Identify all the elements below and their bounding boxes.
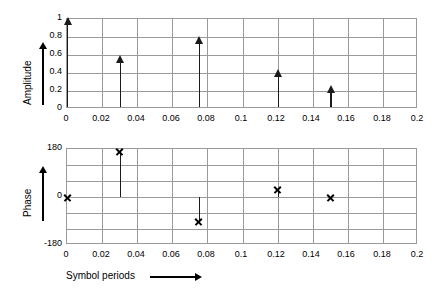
phase-xtick: 0.04 xyxy=(118,250,154,259)
amplitude-stem xyxy=(330,93,331,108)
gridline-v xyxy=(102,19,103,107)
phase-xtick: 0.12 xyxy=(258,250,294,259)
amplitude-arrowhead-icon xyxy=(195,36,203,44)
phase-xtick: 0.06 xyxy=(153,250,189,259)
amplitude-arrowhead-icon xyxy=(64,17,72,25)
amplitude-xtick: 0.12 xyxy=(258,114,294,123)
phase-xtick: 0.02 xyxy=(83,250,119,259)
gridline-v xyxy=(383,19,384,107)
amplitude-ytick: 0 xyxy=(38,103,62,112)
phase-xtick: 0.18 xyxy=(364,250,400,259)
amplitude-ytick: 0.4 xyxy=(38,67,62,76)
gridline-v xyxy=(207,19,208,107)
phase-xtick: 0.08 xyxy=(188,250,224,259)
gridline-v xyxy=(102,149,103,243)
amplitude-stem xyxy=(120,63,121,107)
gridline-v xyxy=(348,149,349,243)
gridline-h xyxy=(67,213,416,214)
amplitude-arrowhead-icon xyxy=(274,69,282,77)
gridline-v xyxy=(243,19,244,107)
phase-ytick: -180 xyxy=(28,239,62,248)
amplitude-xtick: 0.14 xyxy=(293,114,329,123)
phase-plot-area xyxy=(66,148,417,244)
amplitude-xtick: 0.06 xyxy=(153,114,189,123)
amplitude-xtick: 0.16 xyxy=(328,114,364,123)
amplitude-ytick: 0.6 xyxy=(38,49,62,58)
phase-marker xyxy=(194,217,203,226)
phase-xtick: 0.14 xyxy=(293,250,329,259)
gridline-h-zero xyxy=(67,197,416,198)
phase-xtick: 0.16 xyxy=(328,250,364,259)
amplitude-xtick: 0.08 xyxy=(188,114,224,123)
amplitude-xtick: 0.2 xyxy=(399,114,435,123)
phase-ytick: 0 xyxy=(28,191,62,200)
amplitude-stem xyxy=(67,25,68,107)
phase-marker xyxy=(326,193,335,202)
phase-chart-panel: Phase xyxy=(0,140,442,300)
phase-xtick: 0.2 xyxy=(399,250,435,259)
gridline-h xyxy=(67,229,416,230)
amplitude-xtick: 0 xyxy=(48,114,84,123)
phase-xtick: 0.1 xyxy=(223,250,259,259)
phase-marker xyxy=(115,147,124,156)
phase-xtick: 0 xyxy=(48,250,84,259)
amplitude-ytick: 0.2 xyxy=(38,85,62,94)
amplitude-chart-panel: Amplitude xyxy=(0,0,442,140)
amplitude-stem xyxy=(199,44,200,107)
amplitude-xtick: 0.1 xyxy=(223,114,259,123)
amplitude-xtick: 0.02 xyxy=(83,114,119,123)
gridline-v xyxy=(172,19,173,107)
phase-stem xyxy=(120,151,121,197)
xaxis-label: Symbol periods xyxy=(66,270,135,281)
gridline-v xyxy=(313,19,314,107)
amplitude-ytick: 1 xyxy=(38,13,62,22)
amplitude-axis-label: Amplitude xyxy=(22,61,33,105)
amplitude-ytick: 0.8 xyxy=(38,31,62,40)
amplitude-xtick: 0.04 xyxy=(118,114,154,123)
phase-marker xyxy=(273,185,282,194)
amplitude-stem xyxy=(278,77,279,107)
gridline-v xyxy=(243,149,244,243)
gridline-v xyxy=(313,149,314,243)
gridline-v xyxy=(207,149,208,243)
phase-ytick: 180 xyxy=(28,143,62,152)
gridline-h xyxy=(67,37,416,38)
amplitude-arrowhead-icon xyxy=(327,85,335,93)
amplitude-plot-area xyxy=(66,18,417,108)
phase-marker xyxy=(63,193,72,202)
gridline-v xyxy=(137,19,138,107)
amplitude-xtick: 0.18 xyxy=(364,114,400,123)
gridline-v xyxy=(383,149,384,243)
gridline-v xyxy=(137,149,138,243)
figure-root: Amplitude xyxy=(0,0,442,300)
gridline-v xyxy=(172,149,173,243)
gridline-v xyxy=(348,19,349,107)
amplitude-arrowhead-icon xyxy=(116,55,124,63)
